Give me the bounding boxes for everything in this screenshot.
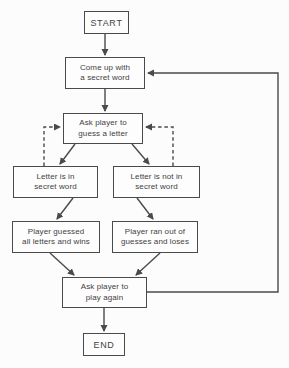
edge-letter-in-to-player-wins (57, 198, 73, 219)
node-ask-guess-letter: Ask player to guess a letter (63, 113, 143, 144)
node-letter-in-word: Letter is in secret word (13, 166, 98, 198)
node-letter-not-in-word: Letter is not in secret word (113, 166, 200, 198)
node-player-wins-label: Player guessed all letters and wins (22, 227, 90, 248)
edge-player-loses-to-play-again (136, 253, 160, 275)
edge-letter-in-loop-to-ask-letter (44, 127, 60, 166)
node-ask-guess-letter-label: Ask player to guess a letter (78, 118, 127, 139)
node-start-label: START (90, 18, 122, 28)
edge-letter-not-in-loop-to-ask-letter (146, 127, 173, 166)
edge-ask-letter-to-letter-not-in (132, 144, 149, 164)
node-player-wins: Player guessed all letters and wins (12, 221, 100, 253)
flowchart: START Come up with a secret word Ask pla… (0, 0, 289, 368)
node-come-up-secret-word: Come up with a secret word (65, 57, 145, 89)
node-letter-not-in-word-label: Letter is not in secret word (131, 172, 183, 193)
node-player-loses: Player ran out of guesses and loses (112, 221, 198, 253)
node-start: START (84, 11, 129, 34)
edge-ask-letter-to-letter-in (60, 144, 75, 164)
node-player-loses-label: Player ran out of guesses and loses (121, 227, 189, 248)
node-letter-in-word-label: Letter is in secret word (34, 172, 76, 193)
node-end-label: END (93, 340, 114, 350)
edge-player-wins-to-play-again (50, 253, 74, 275)
node-end: END (83, 333, 125, 356)
node-ask-play-again-label: Ask player to play again (81, 282, 129, 303)
node-ask-play-again: Ask player to play again (62, 277, 147, 308)
edge-letter-not-in-to-player-loses (137, 198, 153, 219)
node-come-up-secret-word-label: Come up with a secret word (80, 63, 130, 84)
